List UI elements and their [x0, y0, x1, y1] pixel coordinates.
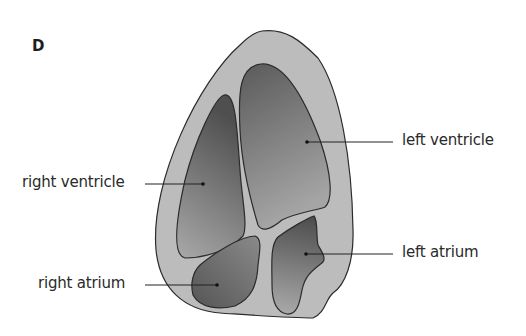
left-atrium-dot [304, 252, 308, 256]
right-atrium-dot [215, 283, 219, 287]
label-right-ventricle: right ventricle [22, 173, 124, 191]
right-ventricle-chamber [177, 95, 245, 258]
right-ventricle-dot [201, 182, 205, 186]
label-right-atrium: right atrium [38, 274, 125, 292]
label-left-atrium: left atrium [402, 243, 478, 261]
left-ventricle-dot [305, 140, 309, 144]
label-left-ventricle: left ventricle [402, 131, 494, 149]
